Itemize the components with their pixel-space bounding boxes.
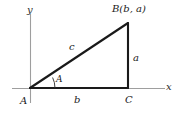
y-axis-label: y (27, 5, 33, 15)
side-label-a: a (133, 53, 139, 63)
vertex-label-c: C (125, 95, 133, 105)
triangle-hypotenuse (30, 23, 128, 88)
side-label-c: c (69, 42, 75, 52)
vertex-label-b: B(b, a) (112, 4, 146, 14)
geometry-figure: B(b, a) A C c a b A x y (0, 0, 181, 118)
vertex-label-a: A (20, 96, 27, 106)
angle-label-a: A (56, 75, 63, 84)
x-axis-label: x (166, 82, 172, 92)
side-label-b: b (74, 95, 80, 105)
angle-arc-marker (53, 78, 55, 89)
